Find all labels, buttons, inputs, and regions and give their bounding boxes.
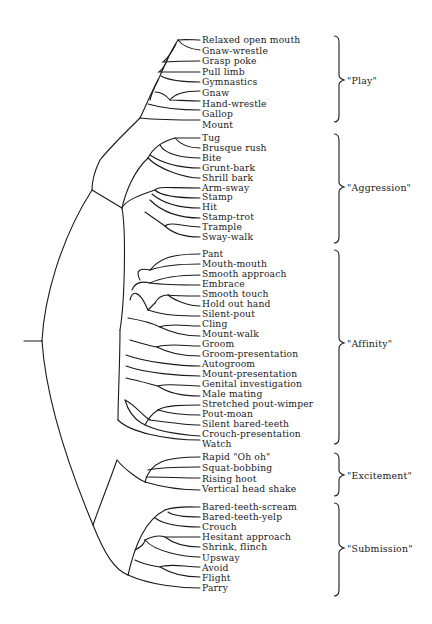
leaf-label: Relaxed open mouth [202, 35, 300, 45]
leaf-label: Shrink, flinch [202, 542, 267, 552]
group-label: "Affinity" [347, 338, 392, 349]
leaf-label: Gymnastics [202, 77, 257, 87]
leaf-label: Rapid "Oh oh" [202, 452, 270, 462]
brace-play [334, 36, 344, 122]
leaf-label: Parry [202, 583, 228, 593]
brace-aggression [334, 134, 344, 243]
leaf-label: Grasp poke [202, 56, 257, 66]
group-label: "Excitement" [347, 470, 412, 481]
leaf-label: Mount [202, 120, 233, 130]
group-label: "Aggression" [347, 182, 411, 193]
brace-excitement [334, 453, 344, 496]
leaf-label: Rising hoot [202, 474, 257, 484]
leaf-label: Hand-wrestle [202, 99, 267, 109]
group-label: "Play" [347, 75, 377, 86]
leaf-label: Pull limb [202, 67, 245, 77]
leaf-label: Vertical head shake [202, 484, 296, 494]
group-braces [334, 36, 344, 596]
leaf-label: Gnaw [202, 88, 229, 98]
group-label: "Submission" [347, 543, 413, 554]
leaf-label: Squat-bobbing [202, 463, 272, 473]
leaf-label: Gallop [202, 109, 233, 119]
tree-branches [24, 40, 200, 588]
leaf-label: Watch [202, 439, 232, 449]
leaf-label: Sway-walk [202, 232, 253, 242]
brace-affinity [334, 250, 344, 444]
brace-submission [334, 503, 344, 596]
leaf-label: Upsway [202, 553, 240, 563]
leaf-label: Gnaw-wrestle [202, 46, 268, 56]
